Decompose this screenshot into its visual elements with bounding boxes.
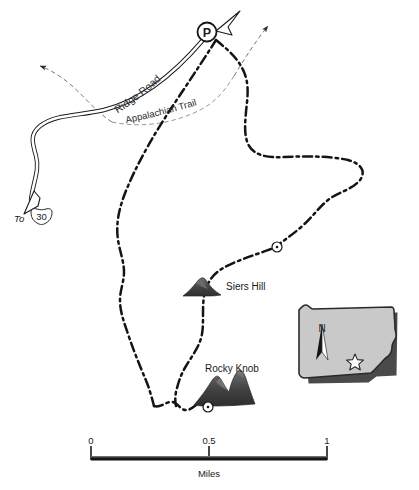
scale-unit-label: Miles: [198, 468, 220, 479]
highway-number-label: 30: [36, 211, 47, 222]
at-east-branch: [234, 26, 268, 76]
parking-label: P: [203, 26, 211, 40]
parking-area-symbol[interactable]: P: [198, 23, 217, 42]
scale-label-1: 1: [324, 435, 329, 446]
north-label: N: [318, 323, 325, 334]
map-canvas: Siers Hill Rocky Knob P To 30: [0, 0, 419, 490]
rocky-knob-label: Rocky Knob: [205, 363, 259, 374]
scale-bar-fill: [91, 456, 327, 461]
scale-label-0: 0: [88, 435, 93, 446]
trail-junction-marker-rocky-knob[interactable]: [203, 402, 213, 412]
loop-trail-east: [216, 40, 363, 246]
trail-junction-marker-east[interactable]: [272, 242, 282, 252]
scale-label-half: 0.5: [202, 435, 215, 446]
road-casing-outer: [31, 40, 203, 200]
highway-shield-icon: 30: [31, 209, 52, 225]
scale-bar: 0 0.5 1 Miles: [88, 435, 329, 479]
pennsylvania-inset-map: N: [299, 305, 398, 384]
siers-hill-label: Siers Hill: [226, 281, 265, 292]
road-arrow-northeast: [216, 11, 240, 35]
siers-hill-summit-icon: [183, 278, 221, 296]
trail-map: Siers Hill Rocky Knob P To 30: [0, 0, 419, 490]
to-label: To: [14, 213, 24, 224]
rocky-knob-summit-icon: [194, 370, 255, 406]
